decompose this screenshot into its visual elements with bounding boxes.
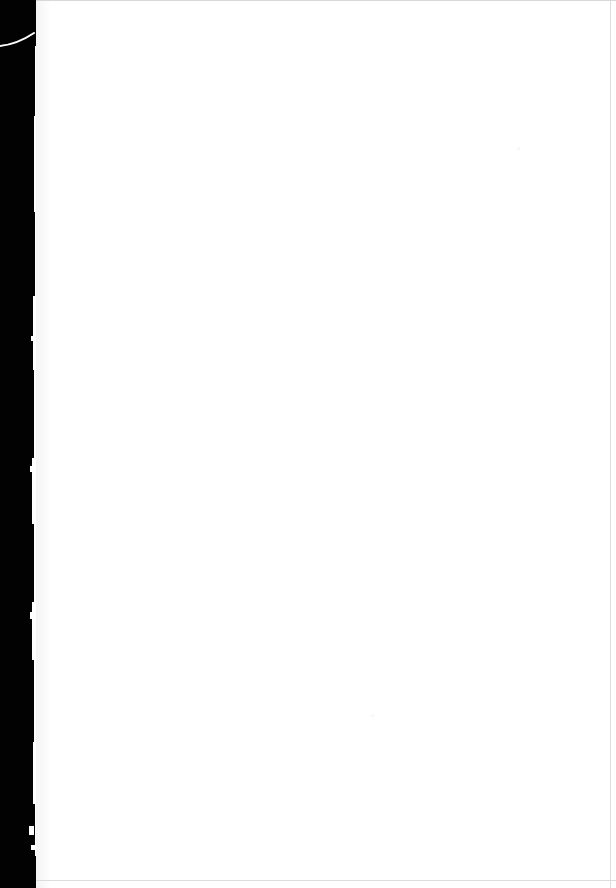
paper-edge-sliver [34, 370, 40, 458]
paper-edge-sliver [32, 602, 39, 660]
paper-edge-nick [29, 826, 34, 835]
corner-curl-icon [0, 24, 44, 54]
paper-edge-sliver [34, 116, 40, 212]
paper-edge-sliver [37, 856, 43, 888]
paper-edge-nick [31, 845, 35, 850]
paper-edge-nick [30, 466, 34, 472]
page-top-border-line [36, 0, 616, 1]
scanned-page-canvas [0, 0, 616, 888]
paper-edge-nick [30, 612, 34, 619]
page-right-border-line [610, 0, 611, 888]
scan-speck [517, 147, 520, 150]
paper-edge-sliver [35, 804, 41, 856]
paper-edge-sliver [33, 742, 39, 804]
scan-speck [371, 714, 374, 717]
paper-edge-sliver [35, 212, 41, 296]
corner-curl-streak [0, 24, 44, 54]
paper-edge-sliver [34, 660, 40, 742]
paper-edge-sliver [34, 524, 40, 602]
page-content-text [44, 2, 45, 3]
page-body [44, 2, 610, 878]
paper-edge-sliver [33, 296, 39, 370]
paper-edge-sliver [35, 46, 41, 116]
page-bottom-border-line [36, 880, 616, 881]
paper-edge-nick [31, 336, 34, 341]
